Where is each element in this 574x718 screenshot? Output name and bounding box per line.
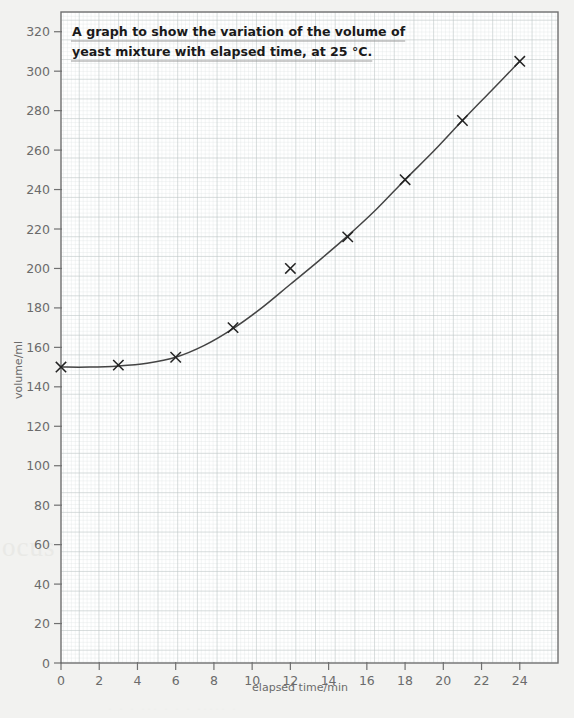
yeast-volume-graph: 0204060801001201401601802002202402602803… [0, 0, 574, 718]
x-tick-label: 4 [133, 673, 141, 688]
y-tick-label: 20 [34, 616, 50, 631]
chart-page: ocus · · · ··· · · · ····· · 02040608010… [0, 0, 574, 718]
x-tick-label: 8 [210, 673, 218, 688]
plot-area [61, 12, 558, 663]
chart-title-line-1: A graph to show the variation of the vol… [72, 24, 406, 39]
y-tick-label: 180 [26, 300, 50, 315]
x-tick-label: 16 [359, 673, 375, 688]
y-tick-label: 140 [26, 379, 50, 394]
y-tick-label: 260 [26, 143, 50, 158]
chart-title-line-2: yeast mixture with elapsed time, at 25 °… [72, 44, 372, 59]
x-tick-label: 18 [397, 673, 413, 688]
y-axis-title: volume/ml [12, 341, 25, 399]
y-tick-label: 240 [26, 182, 50, 197]
x-tick-label: 24 [512, 673, 528, 688]
y-axis: 0204060801001201401601802002202402602803… [12, 24, 62, 670]
y-tick-label: 120 [26, 419, 50, 434]
y-tick-label: 0 [42, 656, 50, 671]
y-tick-label: 80 [34, 498, 50, 513]
x-tick-label: 6 [172, 673, 180, 688]
x-axis-title: elapsed time/min [252, 681, 348, 694]
y-tick-label: 200 [26, 261, 50, 276]
y-tick-label: 60 [34, 537, 50, 552]
y-tick-group: 0204060801001201401601802002202402602803… [26, 24, 62, 670]
y-tick-label: 100 [26, 458, 50, 473]
y-tick-label: 320 [26, 24, 50, 39]
major-gridlines [62, 13, 558, 663]
x-tick-label: 2 [95, 673, 103, 688]
y-tick-label: 300 [26, 64, 50, 79]
x-tick-label: 20 [435, 673, 451, 688]
x-axis: 024681012141618202224 elapsed time/min [57, 662, 528, 694]
x-tick-label: 22 [474, 673, 490, 688]
y-tick-label: 280 [26, 103, 50, 118]
x-tick-label: 0 [57, 673, 65, 688]
y-tick-label: 220 [26, 222, 50, 237]
y-tick-label: 40 [34, 577, 50, 592]
y-tick-label: 160 [26, 340, 50, 355]
